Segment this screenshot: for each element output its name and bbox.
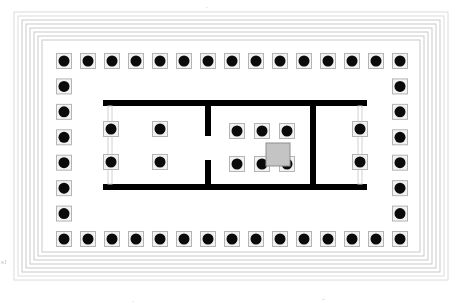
opisthodomos-column-1 bbox=[155, 124, 166, 135]
cella-column-1 bbox=[232, 126, 243, 137]
peristyle-column-29 bbox=[395, 56, 406, 67]
peristyle-column-13 bbox=[203, 56, 214, 67]
peristyle-column-27 bbox=[371, 56, 382, 67]
peristyle-column-16 bbox=[227, 234, 238, 245]
edge-mark-top: . bbox=[206, 2, 207, 10]
peristyle-column-6 bbox=[107, 234, 118, 245]
peristyle-column-26 bbox=[347, 234, 358, 245]
peristyle-column-11 bbox=[179, 56, 190, 67]
wall-west-cella-upper bbox=[205, 100, 211, 136]
peristyle-column-23 bbox=[323, 56, 334, 67]
wall-cella-east bbox=[310, 100, 316, 190]
peristyle-column-41 bbox=[59, 208, 70, 219]
peristyle-column-35 bbox=[59, 132, 70, 143]
peristyle-column-42 bbox=[395, 208, 406, 219]
cella-column-4 bbox=[232, 159, 243, 170]
peristyle-column-4 bbox=[83, 234, 94, 245]
temple-ground-plan bbox=[0, 0, 462, 304]
peristyle-column-18 bbox=[251, 234, 262, 245]
peristyle-column-30 bbox=[395, 234, 406, 245]
opisthodomos-column-4 bbox=[106, 157, 117, 168]
pronaos-column-2 bbox=[355, 157, 366, 168]
cella-column-2 bbox=[257, 126, 268, 137]
peristyle-column-17 bbox=[251, 56, 262, 67]
peristyle-column-8 bbox=[131, 234, 142, 245]
peristyle-column-7 bbox=[131, 56, 142, 67]
wall-west-cella-lower bbox=[205, 160, 211, 190]
peristyle-column-21 bbox=[299, 56, 310, 67]
cella-wall-north bbox=[103, 100, 367, 106]
peristyle-column-31 bbox=[59, 81, 70, 92]
plan-background bbox=[0, 0, 462, 304]
peristyle-column-24 bbox=[323, 234, 334, 245]
edge-mark-bottom-right: .. bbox=[322, 294, 325, 302]
peristyle-column-9 bbox=[155, 56, 166, 67]
opisthodomos-column-2 bbox=[155, 157, 166, 168]
peristyle-column-38 bbox=[395, 157, 406, 168]
peristyle-column-10 bbox=[155, 234, 166, 245]
edge-mark-left: s l bbox=[1, 258, 6, 266]
peristyle-column-15 bbox=[227, 56, 238, 67]
peristyle-column-20 bbox=[275, 234, 286, 245]
peristyle-column-37 bbox=[59, 157, 70, 168]
peristyle-column-12 bbox=[179, 234, 190, 245]
peristyle-column-32 bbox=[395, 81, 406, 92]
peristyle-column-28 bbox=[371, 234, 382, 245]
peristyle-column-39 bbox=[59, 183, 70, 194]
opisthodomos-column-3 bbox=[106, 124, 117, 135]
cult-statue-base-block bbox=[266, 143, 290, 166]
pronaos-column-1 bbox=[355, 124, 366, 135]
peristyle-column-34 bbox=[395, 106, 406, 117]
peristyle-column-2 bbox=[59, 234, 70, 245]
peristyle-column-25 bbox=[347, 56, 358, 67]
peristyle-column-19 bbox=[275, 56, 286, 67]
peristyle-column-33 bbox=[59, 106, 70, 117]
peristyle-column-40 bbox=[395, 183, 406, 194]
edge-mark-bottom-left: . bbox=[132, 296, 133, 304]
peristyle-column-3 bbox=[83, 56, 94, 67]
cella-column-3 bbox=[282, 126, 293, 137]
peristyle-column-36 bbox=[395, 132, 406, 143]
peristyle-column-14 bbox=[203, 234, 214, 245]
peristyle-column-1 bbox=[59, 56, 70, 67]
cella-wall-south bbox=[103, 184, 367, 190]
peristyle-column-22 bbox=[299, 234, 310, 245]
cult-statue-base bbox=[266, 143, 290, 166]
peristyle-column-5 bbox=[107, 56, 118, 67]
